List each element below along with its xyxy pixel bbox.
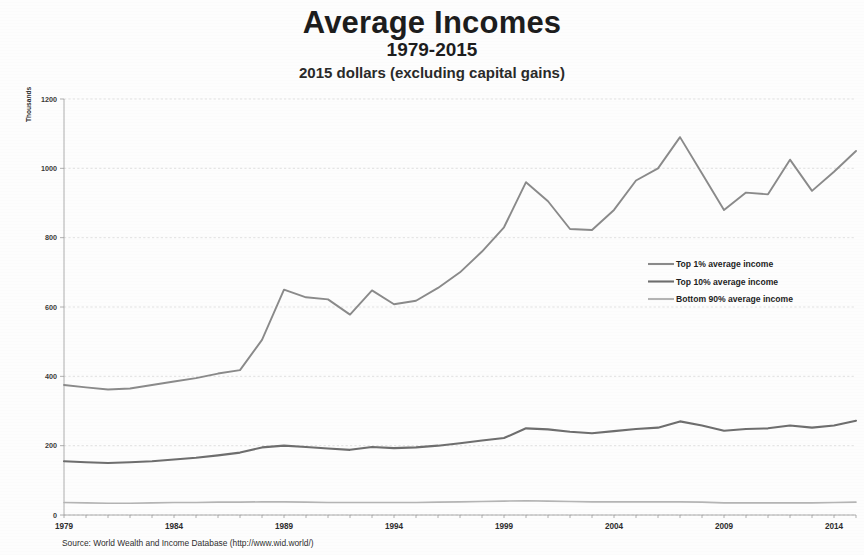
y-tick-label: 800 xyxy=(45,233,57,242)
x-tick-label: 1979 xyxy=(55,522,74,531)
y-tick-label: 1200 xyxy=(41,95,57,104)
x-tick-label: 2014 xyxy=(825,522,844,531)
series-line xyxy=(64,501,856,503)
x-tick-label: 1999 xyxy=(495,522,514,531)
slide-canvas: Average Incomes 1979-2015 2015 dollars (… xyxy=(0,0,864,555)
series-line xyxy=(64,421,856,463)
x-tick-label: 2009 xyxy=(715,522,734,531)
chart-area: 020040060080010001200 197919841989199419… xyxy=(0,0,864,555)
legend-item-label: Bottom 90% average income xyxy=(676,294,793,304)
y-tick-label: 200 xyxy=(45,441,57,450)
y-tick-label: 0 xyxy=(53,511,57,520)
income-line-chart: 020040060080010001200 197919841989199419… xyxy=(0,0,864,555)
gridlines xyxy=(60,99,856,515)
y-tick-label: 400 xyxy=(45,372,57,381)
source-note: Source: World Wealth and Income Database… xyxy=(62,538,314,548)
chart-legend: Top 1% average incomeTop 10% average inc… xyxy=(648,259,793,304)
series-lines xyxy=(64,137,856,503)
y-tick-label: 1000 xyxy=(41,164,57,173)
x-tick-label: 1989 xyxy=(275,522,294,531)
y-axis-unit-label: Thousands xyxy=(25,86,32,122)
legend-item-label: Top 1% average income xyxy=(676,259,773,269)
legend-item-label: Top 10% average income xyxy=(676,277,778,287)
x-tick-label: 1994 xyxy=(385,522,404,531)
x-tick-label: 1984 xyxy=(165,522,184,531)
x-axis-tick-labels: 19791984198919941999200420092014 xyxy=(55,515,856,531)
x-tick-label: 2004 xyxy=(605,522,624,531)
y-axis-tick-labels: 020040060080010001200 xyxy=(41,95,57,520)
y-tick-label: 600 xyxy=(45,303,57,312)
